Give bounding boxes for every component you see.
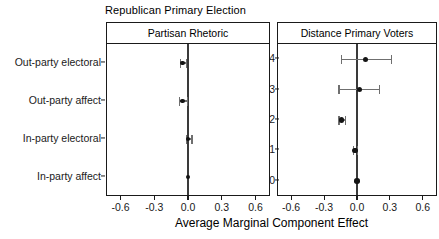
panel-partisan-rhetoric: Partisan Rhetoric [106,22,270,196]
y-axis-tick-mark [101,137,105,138]
y-axis-tick-label: Out-party electoral [15,56,101,68]
x-axis-tick-label: 0.6 [416,201,431,213]
x-axis-tick-mark [389,196,390,200]
estimate-point [180,99,184,103]
x-axis-tick-mark [187,196,188,200]
y-axis-tick-mark [275,149,279,150]
confidence-interval-cap [186,59,187,68]
y-axis-tick-mark [275,88,279,89]
zero-reference-line-left [187,44,189,195]
plot-area-right [278,44,436,195]
x-axis-right: -0.6-0.30.00.30.6 [277,196,437,216]
estimate-point [357,87,362,92]
y-axis-tick-mark [101,61,105,62]
estimate-point [339,117,344,122]
estimate-point [186,175,190,179]
x-axis-tick-mark [324,196,325,200]
y-axis-tick-mark [101,99,105,100]
confidence-interval-cap [191,135,192,144]
x-axis-tick-mark [255,196,256,200]
estimate-point [363,57,368,62]
x-axis-tick-label: 0.0 [181,201,196,213]
y-axis-labels-left: Out-party electoralOut-party affectIn-pa… [0,43,101,196]
panel-strip-label-left: Partisan Rhetoric [107,23,269,44]
x-axis-tick-mark [120,196,121,200]
y-axis-tick-mark [275,118,279,119]
x-axis-tick-mark [291,196,292,200]
confidence-interval-cap [345,116,346,125]
confidence-interval-cap [379,85,380,94]
x-axis-tick-mark [154,196,155,200]
confidence-interval-cap [338,85,339,94]
y-axis-tick-mark [101,175,105,176]
confidence-interval-cap [341,55,342,64]
confidence-interval-cap [391,55,392,64]
panel-distance-primary-voters: Distance Primary Voters [277,22,437,196]
x-axis-tick-label: 0.0 [350,201,365,213]
x-axis-tick-label: 0.3 [383,201,398,213]
y-axis-tick-mark [275,58,279,59]
y-axis-labels-right: 43210 [258,43,275,196]
estimate-point [352,148,357,153]
y-axis-tick-label: Out-party affect [29,94,101,106]
estimate-point [354,178,359,183]
x-axis-tick-mark [422,196,423,200]
x-axis-tick-label: 0.3 [214,201,229,213]
plot-area-left [107,44,269,195]
estimate-point [186,137,190,141]
x-axis-tick-label: -0.3 [315,201,333,213]
estimate-point [180,61,184,65]
x-axis-tick-label: -0.3 [145,201,163,213]
y-axis-tick-mark [275,179,279,180]
x-axis-tick-label: 0.6 [248,201,263,213]
y-axis-tick-label: In-party electoral [23,132,101,144]
x-axis-tick-label: -0.6 [282,201,300,213]
x-axis-left: -0.6-0.30.00.30.6 [106,196,270,216]
figure-root: Republican Primary Election Partisan Rhe… [0,0,439,239]
x-axis-tick-mark [356,196,357,200]
panel-strip-label-right: Distance Primary Voters [278,23,436,44]
x-axis-title: Average Marginal Component Effect [106,216,437,230]
zero-reference-line-right [356,44,358,195]
figure-title: Republican Primary Election [0,4,395,16]
x-axis-tick-mark [221,196,222,200]
confidence-interval-cap [187,97,188,106]
y-axis-tick-label: In-party affect [37,170,101,182]
x-axis-tick-label: -0.6 [111,201,129,213]
